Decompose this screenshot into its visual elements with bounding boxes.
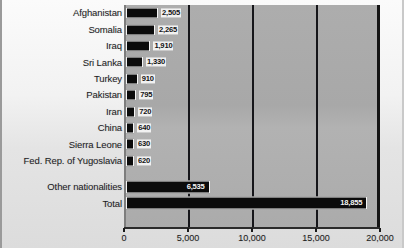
bar: [126, 122, 134, 133]
bar-value-label: 620: [137, 156, 151, 165]
bar-value-label: 720: [138, 107, 152, 116]
bar-track: 2,265: [126, 21, 404, 37]
x-axis-tick: [251, 228, 253, 232]
bar-track: 630: [126, 136, 404, 152]
bar: [126, 139, 134, 150]
bar-value-label: 630: [137, 140, 151, 149]
x-axis-tick: [123, 228, 125, 232]
x-axis-tick: [187, 228, 189, 232]
table-row: Pakistan795: [2, 87, 404, 103]
bar-track: 620: [126, 153, 404, 169]
bar: [126, 40, 150, 51]
bar-rows: Afghanistan2,505Somalia2,265Iraq1,910Sri…: [2, 5, 404, 212]
x-axis-tick-label: 5,000: [177, 233, 200, 243]
bar-category-label: Other nationalities: [2, 182, 126, 192]
table-row: Sri Lanka1,330: [2, 54, 404, 70]
x-axis-tick-label: 15,000: [302, 233, 330, 243]
bar-category-label: China: [2, 123, 126, 133]
bar-value-label: 6,535: [186, 183, 206, 192]
table-row: Afghanistan2,505: [2, 5, 404, 21]
bar-value-label: 18,855: [339, 199, 363, 208]
bar-category-label: Turkey: [2, 74, 126, 84]
bar: [126, 73, 138, 84]
bar-track: 1,910: [126, 38, 404, 54]
x-axis: 05,00010,00015,00020,000: [124, 228, 380, 248]
chart-figure: Afghanistan2,505Somalia2,265Iraq1,910Sri…: [0, 0, 404, 248]
bar-track: 795: [126, 87, 404, 103]
bar-value-label: 640: [137, 123, 151, 132]
bar-value-label: 1,330: [146, 58, 166, 67]
x-axis-tick: [379, 228, 381, 232]
bar-category-label: Somalia: [2, 25, 126, 35]
bar: [126, 155, 134, 166]
row-spacer: [2, 169, 404, 179]
x-axis-tick: [315, 228, 317, 232]
table-row: Iraq1,910: [2, 38, 404, 54]
x-axis-tick-label: 10,000: [238, 233, 266, 243]
table-row: Turkey910: [2, 71, 404, 87]
bar: [126, 8, 158, 19]
bar-category-label: Total: [2, 199, 126, 209]
table-row: Total18,855: [2, 195, 404, 211]
x-axis-tick-label: 0: [121, 233, 126, 243]
bar-category-label: Sierra Leone: [2, 140, 126, 150]
table-row: Somalia2,265: [2, 21, 404, 37]
bar-track: 6,535: [126, 179, 404, 195]
bar-category-label: Afghanistan: [2, 8, 126, 18]
bar: [126, 90, 136, 101]
bar-category-label: Pakistan: [2, 90, 126, 100]
bar-track: 910: [126, 71, 404, 87]
bar-category-label: Iran: [2, 107, 126, 117]
bar: [126, 57, 143, 68]
table-row: Fed. Rep. of Yugoslavia620: [2, 153, 404, 169]
table-row: Iran720: [2, 103, 404, 119]
bar-value-label: 795: [139, 91, 153, 100]
bar: [126, 24, 155, 35]
bar: [126, 106, 135, 117]
bar-category-label: Fed. Rep. of Yugoslavia: [2, 156, 126, 166]
bar-track: 2,505: [126, 5, 404, 21]
bar-track: 18,855: [126, 195, 404, 211]
bar-value-label: 2,265: [158, 25, 178, 34]
table-row: China640: [2, 120, 404, 136]
bar-value-label: 2,505: [161, 9, 181, 18]
bar-category-label: Sri Lanka: [2, 58, 126, 68]
table-row: Other nationalities6,535: [2, 179, 404, 195]
bar-track: 1,330: [126, 54, 404, 70]
bar-track: 640: [126, 120, 404, 136]
bar: [126, 197, 367, 210]
bar-value-label: 910: [141, 74, 155, 83]
bar-track: 720: [126, 103, 404, 119]
bar-category-label: Iraq: [2, 41, 126, 51]
bar-value-label: 1,910: [153, 41, 173, 50]
x-axis-tick-label: 20,000: [366, 233, 394, 243]
table-row: Sierra Leone630: [2, 136, 404, 152]
